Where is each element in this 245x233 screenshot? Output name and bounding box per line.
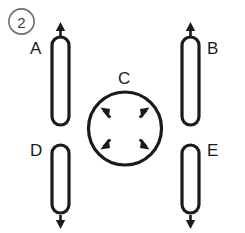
object-c-group: C	[89, 69, 162, 165]
object-d-group: D	[30, 141, 69, 229]
label-c: C	[118, 69, 130, 88]
arrow-down-d	[56, 215, 65, 229]
figure-number-badge: 2	[9, 9, 34, 34]
circle-c	[89, 92, 162, 165]
label-b: B	[207, 39, 218, 58]
object-a-group: A	[30, 22, 69, 125]
label-e: E	[207, 141, 218, 160]
arrow-up-b	[186, 22, 195, 36]
arrow-up-a	[56, 22, 65, 36]
arrow-up-a-head	[56, 22, 65, 31]
object-e-group: E	[182, 141, 218, 229]
arrow-down-d-head	[56, 220, 65, 229]
arrow-down-e-head	[186, 220, 195, 229]
label-d: D	[30, 141, 42, 160]
figure-diagram-2: 2 A B C	[0, 0, 245, 233]
object-b-group: B	[182, 22, 218, 125]
arrow-down-e	[186, 215, 195, 229]
label-a: A	[30, 39, 42, 58]
badge-number-text: 2	[17, 14, 25, 31]
diagram-canvas: 2 A B C	[0, 0, 245, 233]
capsule-e	[182, 145, 199, 213]
arrow-up-b-head	[186, 22, 195, 31]
capsule-b	[182, 37, 199, 125]
capsule-d	[52, 145, 69, 213]
capsule-a	[52, 37, 69, 125]
